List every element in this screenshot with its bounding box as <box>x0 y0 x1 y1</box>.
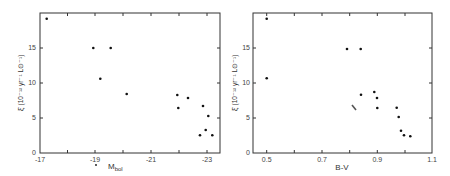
left-panel: 0 5 10 15 -17 -19 -21 -23 Mbol ξ̇ (10⁻¹²… <box>16 13 220 172</box>
right-plot-frame <box>253 13 432 153</box>
right-ytick-label: 0 <box>246 149 250 156</box>
right-xtick-label: 1.1 <box>427 156 437 163</box>
left-xtick-label: -19 <box>90 156 100 163</box>
left-ytick-label: 5 <box>32 114 36 121</box>
svg-text:ξ̇ (10⁻¹² yr⁻¹ L⊙⁻¹): ξ̇ (10⁻¹² yr⁻¹ L⊙⁻¹) <box>230 55 239 112</box>
left-data-points <box>45 17 213 136</box>
right-y-ticks <box>253 48 432 118</box>
left-x-axis-label: Mbol <box>108 162 123 172</box>
left-y-axis-label: ξ̇ (10⁻¹² yr⁻¹ L⊙⁻¹) <box>16 55 25 112</box>
right-xtick-label: 0.7 <box>317 156 327 163</box>
left-ytick-label: 10 <box>28 79 36 86</box>
smudge-mark <box>352 105 356 110</box>
right-ytick-label: 10 <box>242 79 250 86</box>
right-ytick-label: 15 <box>242 44 250 51</box>
right-ytick-label: 5 <box>246 114 250 121</box>
left-xtick-label: -17 <box>35 156 45 163</box>
right-data-points <box>265 17 411 137</box>
stray-mark <box>95 164 97 166</box>
left-y-ticks <box>40 48 220 118</box>
svg-text:ξ̇ (10⁻¹² yr⁻¹ L⊙⁻¹): ξ̇ (10⁻¹² yr⁻¹ L⊙⁻¹) <box>16 55 25 112</box>
right-xtick-label: 0.9 <box>372 156 382 163</box>
right-y-axis-label: ξ̇ (10⁻¹² yr⁻¹ L⊙⁻¹) <box>230 55 239 112</box>
chart-canvas: 0 5 10 15 -17 -19 -21 -23 Mbol ξ̇ (10⁻¹²… <box>0 0 450 176</box>
left-ytick-label: 15 <box>28 44 36 51</box>
right-x-ticks <box>267 13 405 153</box>
left-plot-frame <box>40 13 220 153</box>
left-xtick-label: -23 <box>202 156 212 163</box>
right-xtick-label: 0.5 <box>262 156 272 163</box>
left-ytick-label: 0 <box>32 149 36 156</box>
left-x-ticks <box>68 13 208 153</box>
right-x-axis-label: B-V <box>335 163 349 172</box>
right-panel: 0 5 10 15 0.5 0.7 0.9 1.1 B-V ξ̇ (10⁻¹² … <box>230 13 437 172</box>
left-xtick-label: -21 <box>146 156 156 163</box>
